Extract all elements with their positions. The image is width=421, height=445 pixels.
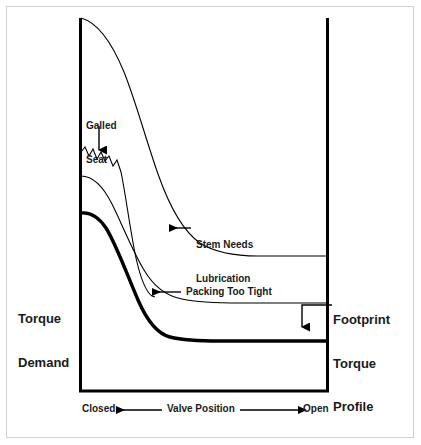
annotation-galled-seat-line2: Seat <box>86 154 117 165</box>
y-axis-label-line1: Torque <box>18 312 69 327</box>
annotation-galled-seat-line1: Galled <box>86 120 117 131</box>
y-axis-label-line2: Demand <box>18 356 69 371</box>
figure-root: Torque Demand Galled Seat Stem Needs Lub… <box>0 0 421 445</box>
annotation-footprint-line2: Torque <box>333 357 390 372</box>
annotation-footprint-line3: Profile <box>333 400 390 415</box>
annotation-stem-line1: Stem Needs <box>196 239 253 250</box>
annotation-footprint-torque-profile: Footprint Torque Profile <box>333 284 390 444</box>
annotation-stem-line2: Lubrication <box>196 273 253 284</box>
annotation-footprint-line1: Footprint <box>333 313 390 328</box>
x-axis-label-closed: Closed <box>82 403 115 414</box>
y-axis-label: Torque Demand <box>18 283 69 399</box>
x-axis-label-valve-position: Valve Position <box>167 403 235 414</box>
annotation-packing-too-tight: Packing Too Tight <box>186 286 272 297</box>
x-axis-label-open: Open <box>303 403 329 414</box>
plot-axes <box>79 18 329 392</box>
annotation-galled-seat: Galled Seat <box>86 98 117 188</box>
